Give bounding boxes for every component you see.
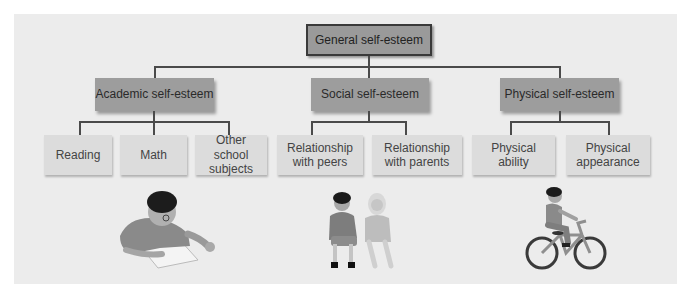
leaf-node-relationship-with-peers: Relationship with peers <box>277 135 363 175</box>
category-label-social: Social self-esteem <box>321 87 419 101</box>
connector-to-parents <box>405 121 407 135</box>
connector-to-peers <box>311 121 313 135</box>
connector-to-ability <box>510 121 512 135</box>
connector-to-appearance <box>608 121 610 135</box>
connector-to-social <box>368 66 370 78</box>
category-label-physical: Physical self-esteem <box>504 87 614 101</box>
connector-physical-horizontal <box>510 121 610 123</box>
leaf-label-math: Math <box>140 148 167 162</box>
category-node-social: Social self-esteem <box>311 78 429 111</box>
leaf-node-reading: Reading <box>44 135 112 175</box>
child-reading-illustration <box>100 188 220 273</box>
leaf-label-physical-appearance: Physical appearance <box>572 141 644 170</box>
two-children-sitting-illustration <box>325 190 410 272</box>
connector-to-academic <box>154 66 156 78</box>
connector-root-horizontal <box>154 66 561 68</box>
connector-to-physical <box>559 66 561 78</box>
leaf-label-other-school-subjects: Other school subjects <box>201 133 261 176</box>
connector-to-reading <box>79 121 81 135</box>
category-label-academic: Academic self-esteem <box>95 87 213 101</box>
leaf-label-relationship-with-peers: Relationship with peers <box>285 141 355 170</box>
connector-to-math <box>153 121 155 135</box>
leaf-node-other-school-subjects: Other school subjects <box>195 135 267 175</box>
connector-social-horizontal <box>311 121 407 123</box>
leaf-label-relationship-with-parents: Relationship with parents <box>378 141 456 170</box>
leaf-node-physical-ability: Physical ability <box>472 135 555 175</box>
leaf-label-reading: Reading <box>56 148 101 162</box>
root-node-general-self-esteem: General self-esteem <box>306 24 432 56</box>
leaf-node-relationship-with-parents: Relationship with parents <box>372 135 462 175</box>
category-node-physical: Physical self-esteem <box>500 78 619 111</box>
child-on-bicycle-illustration <box>522 185 612 273</box>
leaf-node-math: Math <box>120 135 187 175</box>
leaf-node-physical-appearance: Physical appearance <box>566 135 650 175</box>
leaf-label-physical-ability: Physical ability <box>486 141 541 170</box>
category-node-academic: Academic self-esteem <box>95 78 214 111</box>
root-node-label: General self-esteem <box>315 33 423 47</box>
